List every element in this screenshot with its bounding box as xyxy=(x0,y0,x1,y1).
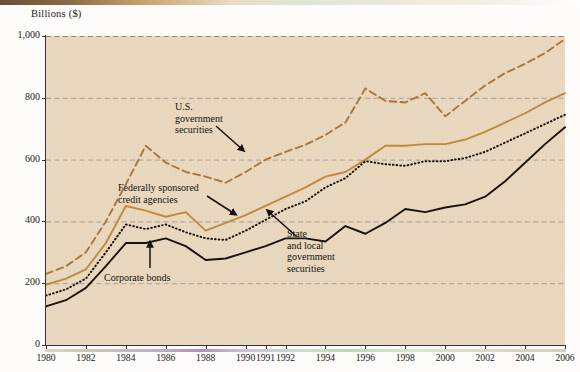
page-bottom-edge-bar xyxy=(45,349,566,352)
arrow-federally-sponsored-credit-agencies xyxy=(207,196,235,214)
annotation-arrows-layer xyxy=(0,0,580,372)
arrow-state-and-local-government-securities xyxy=(268,211,296,236)
figure-canvas: Billions ($) 02004006008001,000 19801982… xyxy=(0,0,580,372)
arrow-us-gov-securities xyxy=(216,126,243,150)
